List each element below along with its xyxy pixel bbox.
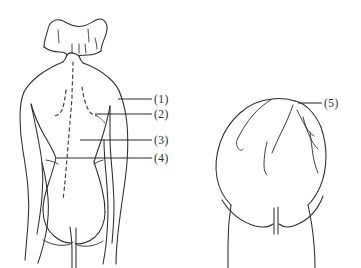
label-4: (4) [154, 152, 169, 165]
label-3: (3) [154, 134, 169, 147]
canvas-background [0, 0, 361, 268]
label-5: (5) [324, 97, 339, 110]
label-2: (2) [154, 108, 169, 121]
anatomical-figure-container: (1) (2) (3) (4) (5) [0, 0, 361, 268]
label-1: (1) [154, 93, 169, 106]
anatomical-line-drawing: (1) (2) (3) (4) (5) [0, 0, 361, 268]
